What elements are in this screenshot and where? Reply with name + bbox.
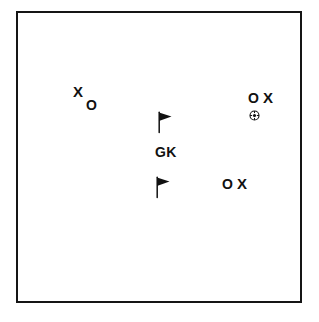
marker-flag-upper-icon: [155, 110, 175, 134]
attacker-x-left: X: [73, 84, 83, 99]
attacker-x-upper-right: X: [263, 90, 273, 105]
defender-o-upper-right: O: [248, 91, 259, 105]
tactical-diagram-canvas: X O O X O X GK: [0, 0, 319, 322]
defender-o-left: O: [86, 98, 97, 112]
gk-label: GK: [155, 145, 177, 159]
soccer-ball-icon: [249, 110, 260, 121]
defender-o-lower-right: O: [222, 177, 233, 191]
attacker-x-lower-right: X: [237, 176, 247, 191]
marker-flag-lower-icon: [153, 175, 173, 199]
